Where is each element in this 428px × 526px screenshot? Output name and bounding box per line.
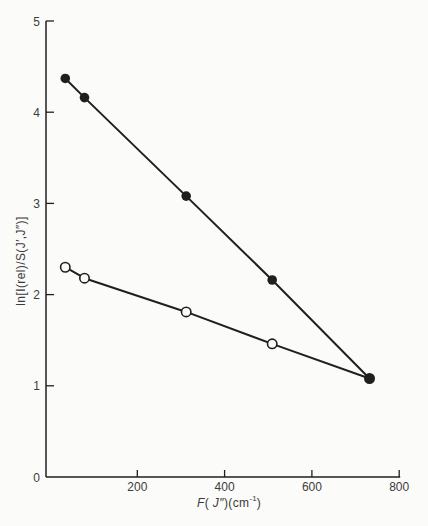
open-circle-marker [61, 263, 70, 272]
y-tick-label: 2 [33, 288, 40, 302]
y-axis-label: ln[I(rel)/S(J′,J″)] [14, 216, 28, 305]
plot-area: 012345200400600800 [0, 0, 428, 526]
x-tick-label: 800 [389, 480, 409, 494]
y-tick-label: 0 [33, 471, 40, 485]
lower-open-circles-line [65, 267, 369, 378]
y-tick-label: 5 [33, 15, 40, 29]
x-axis-unit-exponent: -1 [250, 494, 257, 503]
open-circle-marker [267, 339, 276, 348]
x-tick-label: 600 [302, 480, 322, 494]
spectroscopy-line-intensity-figure: 012345200400600800 ln[I(rel)/S(J′,J″)] F… [0, 0, 428, 526]
y-tick-label: 1 [33, 379, 40, 393]
upper-filled-circles-line [65, 78, 369, 378]
open-circle-marker [80, 273, 89, 282]
filled-circle-marker [60, 74, 70, 84]
x-axis-label-variable: F [197, 496, 205, 510]
filled-circle-marker [267, 275, 277, 285]
filled-circle-marker [181, 191, 191, 201]
x-axis-label: F( J″)(cm-1) [197, 496, 261, 510]
y-tick-label: 4 [33, 106, 40, 120]
filled-circle-marker [365, 374, 375, 384]
x-tick-label: 200 [127, 480, 147, 494]
filled-circle-marker [80, 93, 90, 103]
x-tick-label: 400 [215, 480, 235, 494]
y-tick-label: 3 [33, 197, 40, 211]
open-circle-marker [181, 307, 190, 316]
